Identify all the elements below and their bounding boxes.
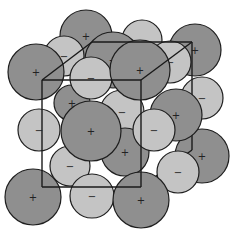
minus-sign-icon: −	[118, 107, 126, 118]
minus-sign-icon: −	[150, 125, 158, 136]
lattice-svg: +−+−+− +−+−+−+− +−+−+−+−+	[0, 0, 235, 230]
minus-sign-icon: −	[87, 73, 95, 84]
plus-sign-icon: +	[121, 147, 129, 158]
minus-sign-icon: −	[174, 167, 182, 178]
anion-sphere: −	[70, 174, 114, 218]
crystal-lattice-diagram: +−+−+− +−+−+−+− +−+−+−+−+	[0, 0, 235, 230]
plus-sign-icon: +	[29, 192, 37, 203]
cation-sphere: +	[61, 101, 121, 161]
plus-sign-icon: +	[172, 110, 180, 121]
anion-sphere: −	[18, 109, 60, 151]
anion-sphere: −	[70, 57, 112, 99]
plus-sign-icon: +	[137, 195, 145, 206]
anion-sphere: −	[133, 109, 175, 151]
plus-sign-icon: +	[32, 67, 40, 78]
plus-sign-icon: +	[136, 65, 144, 76]
minus-sign-icon: −	[66, 161, 74, 172]
plus-sign-icon: +	[82, 31, 90, 42]
front-layer-ions: +−+−+−+−+	[5, 40, 175, 228]
cation-sphere: +	[8, 44, 64, 100]
cation-sphere: +	[5, 169, 61, 225]
plus-sign-icon: +	[87, 126, 95, 137]
minus-sign-icon: −	[88, 191, 96, 202]
plus-sign-icon: +	[198, 151, 206, 162]
cation-sphere: +	[110, 40, 170, 100]
